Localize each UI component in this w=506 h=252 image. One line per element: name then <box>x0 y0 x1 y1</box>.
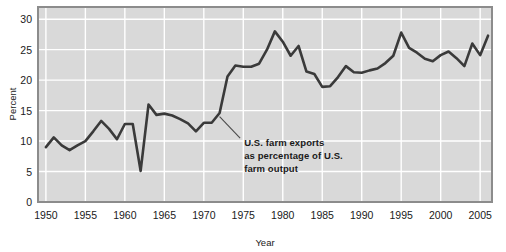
x-tick-label: 1970 <box>192 209 216 221</box>
y-tick-label: 25 <box>20 44 32 56</box>
x-tick-label: 1985 <box>311 209 335 221</box>
callout-line: as percentage of U.S. <box>244 150 343 161</box>
x-tick-label: 1990 <box>350 209 374 221</box>
y-tick-label: 5 <box>26 166 32 178</box>
chart-figure: 051015202530 195019551960196519701975198… <box>0 0 506 252</box>
y-tick-label: 20 <box>20 74 32 86</box>
x-tick-label: 2005 <box>468 209 492 221</box>
x-tick-label: 1995 <box>390 209 414 221</box>
x-tick-label: 1950 <box>34 209 58 221</box>
x-axis-title: Year <box>255 237 274 248</box>
callout-line: U.S. farm exports <box>244 137 324 148</box>
y-tick-label: 30 <box>20 13 32 25</box>
x-tick-label: 1980 <box>271 209 295 221</box>
y-tick-label: 0 <box>26 196 32 208</box>
farm-exports-line-chart: 051015202530 195019551960196519701975198… <box>0 0 506 252</box>
x-tick-label: 1975 <box>232 209 256 221</box>
x-tick-label: 1955 <box>74 209 98 221</box>
y-tick-label: 15 <box>20 105 32 117</box>
callout-line: farm output <box>244 163 299 174</box>
y-axis-title: Percent <box>7 87 18 120</box>
x-tick-label: 2000 <box>429 209 453 221</box>
x-tick-label: 1960 <box>113 209 137 221</box>
x-tick-label: 1965 <box>153 209 177 221</box>
y-tick-label: 10 <box>20 135 32 147</box>
